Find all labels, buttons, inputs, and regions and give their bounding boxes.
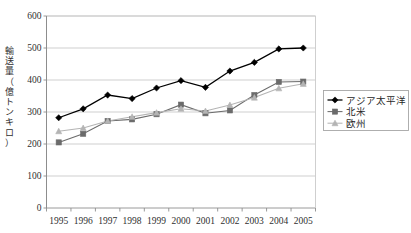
x-tick-label: 2003 [245,216,264,226]
y-tick-labels: 0100200300400500600 [27,11,46,213]
legend-item-label[interactable]: アジア太平洋 [346,95,406,106]
legend-item-label[interactable]: 欧州 [346,118,366,129]
y-tick-label: 400 [27,75,42,85]
plot-area: 0100200300400500600 19951996199719981999… [0,0,411,233]
data-point-marker [80,106,86,112]
data-point-marker [227,108,232,113]
x-tick-label: 1996 [74,216,93,226]
data-point-marker [300,45,306,51]
chart-container: 輸 送 量 （ 億 ト ン キ ロ ） 0100200300400500600 … [0,0,411,233]
x-tick-marks [47,208,316,212]
data-point-marker [153,85,159,91]
x-tick-label: 1995 [49,216,68,226]
data-point-marker [129,95,135,101]
x-tick-label: 1999 [147,216,166,226]
data-point-marker [105,92,111,98]
gridlines [47,16,316,208]
y-tick-label: 300 [27,107,42,117]
legend: アジア太平洋北米欧州 [324,91,409,131]
series-markers [56,45,307,145]
data-point-marker [276,79,281,84]
legend-item-label[interactable]: 北米 [346,106,366,117]
y-tick-label: 200 [27,139,42,149]
data-point-marker [81,131,86,136]
x-tick-label: 2002 [220,216,239,226]
data-point-marker [56,140,61,145]
y-tick-label: 600 [27,11,42,21]
y-tick-label: 100 [27,171,42,181]
y-tick-label: 0 [37,203,42,213]
x-tick-label: 2004 [269,216,288,226]
data-point-marker [276,46,282,52]
series-lines [59,48,304,142]
x-tick-label: 1997 [98,216,117,226]
x-tick-label: 2005 [294,216,313,226]
legend-marker [332,109,337,114]
data-point-marker [251,59,257,65]
x-tick-labels: 1995199619971998199920002001200220032004… [49,216,313,226]
data-point-marker [178,78,184,84]
data-point-marker [56,115,62,121]
x-tick-label: 2001 [196,216,215,226]
x-tick-label: 1998 [123,216,142,226]
x-tick-label: 2000 [172,216,191,226]
y-tick-label: 500 [27,43,42,53]
